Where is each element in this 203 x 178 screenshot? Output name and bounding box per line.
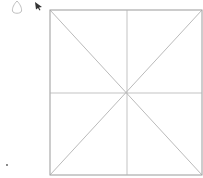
cursor-icon — [35, 2, 42, 11]
dot-icon — [6, 164, 8, 166]
diagram-canvas — [0, 0, 203, 178]
teardrop-icon — [12, 1, 21, 13]
